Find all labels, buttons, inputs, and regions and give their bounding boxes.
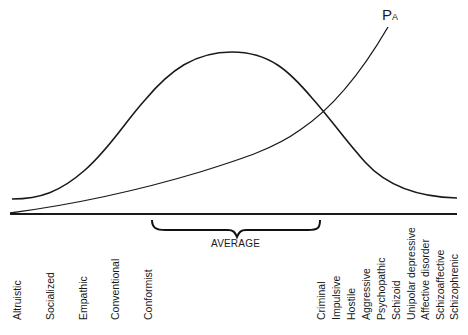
pa-label-subscript: A	[392, 12, 398, 22]
label-socialized: Socialized	[44, 272, 56, 320]
bell-curve	[12, 52, 457, 199]
label-criminal: Criminal	[315, 281, 327, 320]
label-schizoaffective: Schizoaffective	[434, 250, 446, 320]
label-impulsive: Impulsive	[330, 276, 342, 320]
label-schizophrenic: Schizophrenic	[448, 254, 460, 320]
pa-label-main: P	[382, 6, 392, 23]
diagram: PA AVERAGE Altruistic Socialized Empathi…	[0, 0, 468, 335]
average-brace	[152, 220, 320, 237]
label-conventional: Conventional	[109, 259, 121, 320]
label-altruistic: Altruistic	[11, 280, 23, 320]
pa-curve-label: PA	[382, 6, 398, 24]
label-schizoid: Schizoid	[390, 280, 402, 320]
label-empathic: Empathic	[77, 276, 89, 320]
label-unipolar-depressive: Unipolar depressive	[405, 227, 417, 320]
label-affective-disorder: Affective disorder	[419, 239, 431, 320]
average-label: AVERAGE	[211, 238, 260, 249]
label-aggressive: Aggressive	[360, 268, 372, 320]
label-hostile: Hostile	[345, 288, 357, 320]
label-psychopathic: Psychopathic	[375, 258, 387, 320]
label-conformist: Conformist	[142, 269, 154, 320]
